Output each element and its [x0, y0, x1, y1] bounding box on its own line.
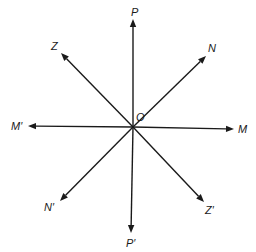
label-p: P — [131, 6, 139, 18]
ray-z-line — [67, 59, 133, 127]
label-z: Z — [50, 40, 59, 52]
label-n: N — [208, 42, 216, 54]
ray-p-prime-line — [131, 127, 133, 225]
label-p-prime: P′ — [126, 237, 136, 249]
label-m-prime: M′ — [11, 120, 23, 132]
arrowhead-p-icon — [130, 19, 136, 27]
ray-m-line — [133, 127, 226, 129]
ray-z-prime-line — [133, 127, 199, 196]
ray-m-prime-line — [36, 126, 133, 127]
ray-n-prime-line — [66, 127, 133, 195]
rays-diagram: PP′MM′ZZ′NN′O — [0, 0, 256, 252]
arrowhead-m-prime-icon — [28, 123, 36, 129]
label-origin-o: O — [136, 111, 145, 123]
rays-group — [28, 19, 234, 233]
arrowhead-m-icon — [226, 126, 234, 132]
label-n-prime: N′ — [44, 201, 55, 213]
label-z-prime: Z′ — [204, 204, 215, 216]
arrowhead-p-prime-icon — [128, 225, 134, 233]
label-m: M — [238, 123, 248, 135]
